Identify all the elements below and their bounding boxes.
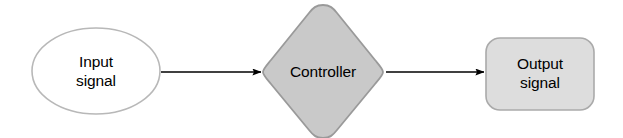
diagram-graphics [0,0,623,138]
node-controller[interactable] [263,5,383,138]
diagram-canvas: Input signal Controller Output signal [0,0,623,138]
node-output-signal[interactable] [486,38,594,110]
node-input-signal[interactable] [32,28,160,114]
